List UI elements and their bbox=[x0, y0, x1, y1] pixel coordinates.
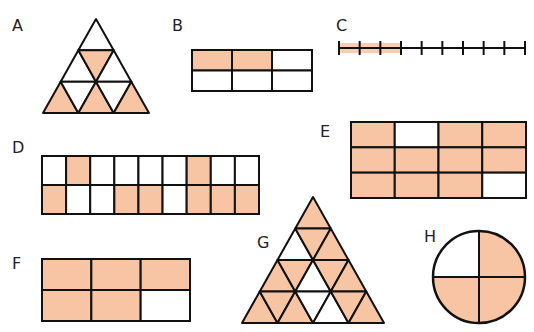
figure-g-triangle-grid bbox=[242, 197, 384, 323]
grid-cell bbox=[138, 156, 162, 185]
grid-cell bbox=[187, 185, 211, 214]
triangle-cell bbox=[78, 19, 113, 50]
grid-cell bbox=[66, 185, 90, 214]
grid-cell bbox=[192, 71, 232, 92]
figure-c-number-line bbox=[339, 41, 525, 55]
grid-cell bbox=[211, 185, 235, 214]
grid-cell bbox=[90, 185, 114, 214]
grid-cell bbox=[141, 259, 190, 290]
figure-a-triangle-grid bbox=[43, 19, 149, 113]
grid-cell bbox=[42, 259, 91, 290]
grid-cell bbox=[272, 71, 312, 92]
grid-cell bbox=[439, 122, 483, 147]
grid-cell bbox=[482, 173, 526, 198]
grid-cell bbox=[91, 259, 140, 290]
grid-cell bbox=[235, 156, 259, 185]
grid-cell bbox=[141, 290, 190, 321]
grid-cell bbox=[42, 290, 91, 321]
grid-cell bbox=[235, 185, 259, 214]
grid-cell bbox=[42, 185, 66, 214]
grid-cell bbox=[232, 50, 272, 71]
grid-cell bbox=[187, 156, 211, 185]
grid-cell bbox=[482, 122, 526, 147]
grid-cell bbox=[395, 122, 439, 147]
grid-cell bbox=[42, 156, 66, 185]
grid-cell bbox=[91, 290, 140, 321]
figure-h-circle bbox=[433, 231, 525, 323]
grid-cell bbox=[232, 71, 272, 92]
grid-cell bbox=[114, 185, 138, 214]
grid-cell bbox=[90, 156, 114, 185]
grid-cell bbox=[163, 156, 187, 185]
figure-f-rect-grid bbox=[42, 259, 190, 321]
grid-cell bbox=[439, 173, 483, 198]
grid-cell bbox=[482, 147, 526, 172]
grid-cell bbox=[192, 50, 232, 71]
grid-cell bbox=[395, 173, 439, 198]
grid-cell bbox=[163, 185, 187, 214]
figure-d-rect-grid bbox=[42, 156, 259, 214]
triangle-cell bbox=[295, 197, 331, 229]
grid-cell bbox=[395, 147, 439, 172]
grid-cell bbox=[351, 173, 395, 198]
grid-cell bbox=[351, 122, 395, 147]
figure-e-rect-grid bbox=[351, 122, 526, 198]
grid-cell bbox=[114, 156, 138, 185]
figure-b-rect-grid bbox=[192, 50, 312, 91]
grid-cell bbox=[138, 185, 162, 214]
grid-cell bbox=[439, 147, 483, 172]
fraction-figures-canvas bbox=[0, 0, 534, 332]
grid-cell bbox=[351, 147, 395, 172]
grid-cell bbox=[272, 50, 312, 71]
grid-cell bbox=[211, 156, 235, 185]
grid-cell bbox=[66, 156, 90, 185]
